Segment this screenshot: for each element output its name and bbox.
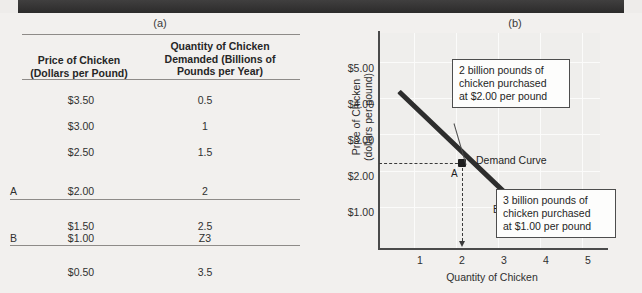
panel-b-demand-curve: (b) $1.00 $2.00 $3.00 $4.00 $5.00 1 2 3 … [330, 13, 642, 293]
column-header-quantity-line2: Demanded (Billions of [150, 53, 290, 66]
panel-a-label: (a) [100, 17, 220, 29]
column-header-price-line2: (Dollars per Pound) [14, 67, 144, 80]
callout-a-line1: 2 billion pounds of [459, 64, 563, 77]
table-rule-after-row-a [10, 199, 300, 200]
data-point-a-label: A [451, 168, 458, 179]
table-cell-price: $1.00 [44, 232, 118, 244]
table-cell-quantity: 2.5 [168, 220, 242, 232]
table-cell-price: $0.50 [44, 266, 118, 278]
y-axis-tick-label: $1.00 [330, 206, 374, 218]
header-bar [18, 0, 624, 13]
guide-line-vertical-a [462, 163, 463, 241]
callout-b: 3 billion pounds of chicken purchased at… [496, 189, 616, 238]
header-bar-cap-left [0, 0, 18, 13]
callout-b-line2: chicken purchased [503, 207, 609, 220]
panel-a-demand-schedule: (a) Price of Chicken (Dollars per Pound)… [0, 13, 330, 293]
panel-b-label: (b) [455, 17, 575, 29]
table-cell-price: $2.00 [44, 185, 118, 197]
y-axis [378, 31, 380, 250]
y-axis-title-line1: Price of Chicken [350, 57, 362, 177]
callout-b-line3: at $1.00 per pound [503, 220, 609, 233]
table-cell-price: $3.50 [44, 94, 118, 106]
callout-a-line2: chicken purchased [459, 77, 563, 90]
callout-a-line3: at $2.00 per pound [459, 90, 563, 103]
table-cell-quantity: 0.5 [168, 94, 242, 106]
column-header-quantity-line1: Quantity of Chicken [150, 40, 290, 53]
table-cell-quantity: 3.5 [168, 266, 242, 278]
table-cell-quantity: Z3 [168, 232, 242, 244]
x-axis-tick-label: 3 [492, 254, 516, 266]
table-cell-price: $1.50 [44, 220, 118, 232]
guide-arrow-a [459, 241, 465, 247]
y-axis-title-line2: (dollars per pound) [362, 57, 374, 177]
x-axis-tick-label: 2 [450, 254, 474, 266]
table-cell-quantity: 1 [168, 120, 242, 132]
column-header-quantity: Quantity of Chicken Demanded (Billions o… [150, 40, 290, 78]
x-axis-title: Quantity of Chicken [392, 271, 592, 283]
table-header-rule [22, 79, 300, 80]
column-header-price: Price of Chicken (Dollars per Pound) [14, 54, 144, 79]
figure-root: (a) Price of Chicken (Dollars per Pound)… [0, 0, 642, 293]
x-axis [378, 248, 608, 250]
gridline-horizontal [378, 171, 600, 172]
gridline-horizontal [378, 134, 600, 135]
table-row-marker-b: B [10, 232, 26, 244]
table-rule-after-row-b [10, 245, 300, 246]
guide-line-horizontal-a [379, 163, 463, 164]
callout-b-line1: 3 billion pounds of [503, 194, 609, 207]
x-axis-tick-label: 1 [408, 254, 432, 266]
callout-a: 2 billion pounds of chicken purchased at… [452, 59, 570, 108]
header-bar-cap-right [624, 0, 642, 13]
table-cell-quantity: 1.5 [168, 146, 242, 158]
y-axis-title: Price of Chicken (dollars per pound) [350, 57, 374, 177]
x-axis-tick-label: 5 [576, 254, 600, 266]
column-header-quantity-line3: Pounds per Year) [150, 65, 290, 78]
table-cell-quantity: 2 [168, 185, 242, 197]
table-row-marker-a: A [10, 185, 26, 197]
demand-curve-label: Demand Curve [476, 154, 547, 166]
table-cell-price: $3.00 [44, 120, 118, 132]
table-cell-price: $2.50 [44, 146, 118, 158]
column-header-price-line1: Price of Chicken [14, 54, 144, 67]
x-axis-tick-label: 4 [534, 254, 558, 266]
table-top-rule [22, 34, 300, 35]
gridline-vertical [414, 33, 415, 248]
